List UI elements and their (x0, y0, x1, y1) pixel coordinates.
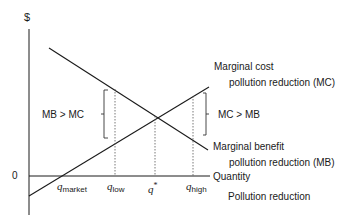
mb-gt-mc-label: MB > MC (42, 109, 84, 120)
tick-q-star: q* (148, 180, 158, 195)
right-bracket (203, 93, 209, 135)
x-axis-label: Quantity (213, 171, 250, 182)
mc-gt-mb-label: MC > MB (218, 109, 260, 120)
mc-curve (29, 87, 209, 196)
y-axis-label: $ (24, 12, 30, 23)
left-bracket (101, 90, 108, 138)
origin-label: 0 (12, 170, 18, 181)
x-axis-sublabel: Pollution reduction (228, 191, 310, 202)
mc-label-line1: Marginal cost (214, 61, 273, 72)
mb-curve (49, 48, 208, 150)
tick-q-market: qmarket (57, 181, 87, 195)
mb-label-line1: Marginal benefit (213, 141, 284, 152)
tick-q-high: qhigh (186, 181, 207, 195)
tick-q-low: qlow (107, 181, 125, 195)
mc-label-line2: pollution reduction (MC) (229, 77, 335, 88)
mb-label-line2: pollution reduction (MB) (229, 157, 335, 168)
